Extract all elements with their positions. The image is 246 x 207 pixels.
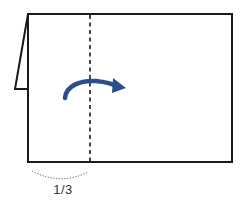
folded-flap	[15, 14, 28, 89]
measure-arc-dotted	[32, 171, 88, 179]
paper-sheet	[28, 14, 232, 162]
fold-diagram	[0, 0, 246, 207]
measure-label: 1/3	[50, 182, 76, 197]
